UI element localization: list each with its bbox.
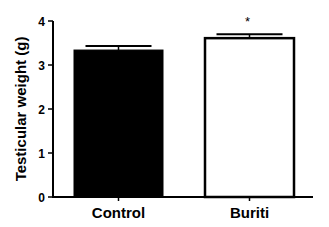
y-tick-label: 1 [38,147,45,161]
x-axis-labels: ControlBuriti [92,204,269,221]
y-axis-title: Testicular weight (g) [12,37,29,182]
y-tick-label: 2 [38,103,45,117]
significance-marker: * [245,14,250,29]
y-axis-ticks: 01234 [38,15,53,205]
x-tick-label: Buriti [230,204,269,221]
y-tick-label: 3 [38,59,45,73]
y-tick-label: 4 [38,15,45,29]
bar-control [74,50,163,197]
bars: * [74,14,294,201]
bar-chart: 01234 * Testicular weight (g) ControlBur… [0,0,329,227]
x-tick-label: Control [92,204,145,221]
y-tick-label: 0 [38,191,45,205]
bar-buriti [205,38,294,197]
